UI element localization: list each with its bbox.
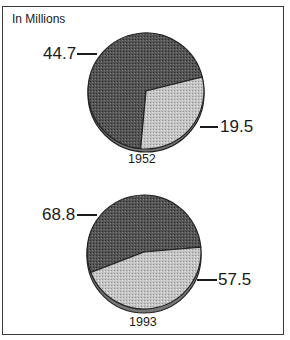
pie-1952	[88, 33, 204, 152]
pie-1993-dark-value: 68.8	[42, 206, 75, 223]
pie-1993-light-value: 57.5	[218, 271, 251, 288]
pie-1993	[87, 195, 201, 313]
pie-1952-dark-leader	[77, 53, 97, 55]
pie-1993-light-leader	[197, 279, 217, 281]
pie-1952-year: 1952	[128, 152, 156, 166]
pie-1993-year: 1993	[129, 315, 157, 329]
pie-1952-light-leader	[200, 126, 218, 128]
pie-1952-light-value: 19.5	[220, 118, 253, 135]
pie-1993-dark-leader	[77, 214, 97, 216]
pie-1952-dark-value: 44.7	[43, 45, 76, 62]
